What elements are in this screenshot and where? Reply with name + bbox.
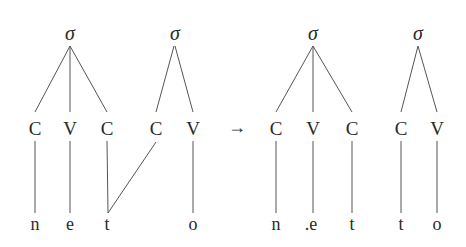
branch-line xyxy=(35,46,70,112)
branch-line xyxy=(175,46,193,112)
segment: n xyxy=(272,215,281,233)
skeleton-slot-consonant: C xyxy=(150,119,163,138)
branch-line xyxy=(418,46,437,112)
segment: e xyxy=(66,215,74,233)
segment: o xyxy=(433,215,442,233)
branch-line xyxy=(156,46,174,112)
skeleton-slot-consonant: C xyxy=(101,119,114,138)
branch-line xyxy=(276,46,313,112)
segment: t xyxy=(398,215,403,233)
segment: t xyxy=(349,215,354,233)
syllable-node: σ xyxy=(308,23,318,43)
skeleton-slot-consonant: C xyxy=(346,119,359,138)
skeleton-slot-consonant: C xyxy=(395,119,408,138)
branch-line xyxy=(401,46,418,112)
association-line xyxy=(107,141,108,213)
skeleton-slot-vowel: V xyxy=(186,119,200,138)
segment: n xyxy=(31,215,40,233)
skeleton-slot-vowel: V xyxy=(63,119,77,138)
branch-line xyxy=(70,46,107,112)
branch-line xyxy=(313,46,352,112)
skeleton-slot-vowel: V xyxy=(306,119,320,138)
syllable-node: σ xyxy=(65,23,75,43)
transformation-arrow-icon: → xyxy=(228,118,246,136)
segment: t xyxy=(104,215,109,233)
skeleton-slot-vowel: V xyxy=(430,119,444,138)
segment: o xyxy=(189,215,198,233)
skeleton-slot-consonant: C xyxy=(270,119,283,138)
skeleton-slot-consonant: C xyxy=(29,119,42,138)
association-line-ambisyllabic xyxy=(108,142,156,213)
segment: .e xyxy=(305,215,318,233)
syllable-node: σ xyxy=(170,23,180,43)
syllable-node: σ xyxy=(413,23,423,43)
